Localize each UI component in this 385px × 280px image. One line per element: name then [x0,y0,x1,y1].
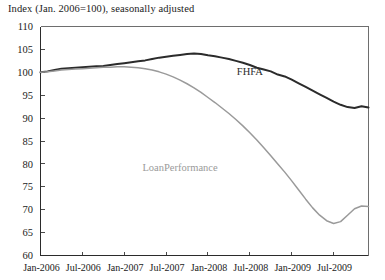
x-tick-label: Jul-2007 [150,262,185,273]
x-tick-label: Jul-2008 [233,262,268,273]
series-label-fhfa: FHFA [237,66,263,77]
x-tick-label: Jan-2006 [23,262,60,273]
x-tick-label: Jan-2008 [191,262,228,273]
series-line-fhfa [41,54,369,108]
y-axis-tick-marks [41,27,45,256]
y-tick-label: 100 [17,67,33,78]
x-axis-tick-labels: Jan-2006Jul-2006Jan-2007Jul-2007Jan-2008… [23,262,352,273]
y-tick-label: 110 [18,21,33,32]
series-annotations: FHFALoanPerformance [142,66,263,173]
chart-plot-area: 1101051009590858075706560 Jan-2006Jul-20… [0,0,385,280]
y-tick-label: 75 [23,181,34,192]
series-lines [41,54,369,224]
y-tick-label: 80 [23,159,34,170]
series-line-loanperformance [41,67,369,224]
x-tick-label: Jan-2007 [107,262,144,273]
x-tick-label: Jul-2006 [66,262,101,273]
y-axis-tick-labels: 1101051009590858075706560 [17,21,33,261]
y-tick-label: 85 [23,136,34,147]
series-label-loan_performance: LoanPerformance [142,162,218,173]
x-tick-label: Jan-2009 [274,262,311,273]
y-tick-label: 105 [17,44,33,55]
y-tick-label: 90 [23,113,34,124]
y-tick-label: 70 [23,204,34,215]
x-tick-label: Jul-2009 [317,262,352,273]
y-tick-label: 65 [23,227,34,238]
y-tick-label: 60 [23,250,34,261]
axis-frame [41,27,369,256]
y-tick-label: 95 [23,90,34,101]
house-price-index-chart: Index (Jan. 2006=100), seasonally adjust… [0,0,385,280]
x-axis-tick-marks [41,252,334,256]
